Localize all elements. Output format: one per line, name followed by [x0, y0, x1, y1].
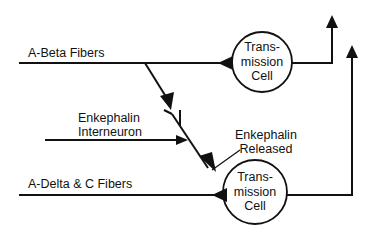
- bottom-output-arrowhead: [346, 45, 358, 58]
- a-beta-fibers-label: A-Beta Fibers: [28, 46, 104, 60]
- enkephalin-released-label: Enkephalin Released: [235, 128, 297, 156]
- top-output-arrowhead: [326, 15, 338, 28]
- top-synapse-triangle: [218, 56, 233, 70]
- interneuron-synapse-triangle: [199, 152, 216, 172]
- top-cell-line2: mission: [232, 55, 292, 70]
- collateral-line: [145, 63, 168, 100]
- interneuron-label-line2: Interneuron: [78, 125, 142, 139]
- top-cell-line1: Trans-: [232, 40, 292, 55]
- bottom-cell-line3: Cell: [225, 199, 285, 214]
- top-output-line: [292, 26, 332, 63]
- top-transmission-cell-label: Trans- mission Cell: [232, 40, 292, 84]
- released-label-line2: Released: [235, 142, 297, 156]
- enkephalin-interneuron-label: Enkephalin Interneuron: [78, 111, 142, 139]
- interneuron-dendrite-left: [164, 110, 172, 114]
- interneuron-label-line1: Enkephalin: [78, 111, 142, 125]
- bottom-cell-line2: mission: [225, 185, 285, 200]
- released-label-line1: Enkephalin: [235, 128, 297, 142]
- bottom-cell-line1: Trans-: [225, 170, 285, 185]
- collateral-synapse-triangle: [160, 92, 174, 110]
- a-delta-c-fibers-label: A-Delta & C Fibers: [28, 177, 132, 191]
- bottom-output-line: [287, 56, 352, 195]
- top-cell-line3: Cell: [232, 69, 292, 84]
- diagram-canvas: [0, 0, 370, 234]
- bottom-transmission-cell-label: Trans- mission Cell: [225, 170, 285, 214]
